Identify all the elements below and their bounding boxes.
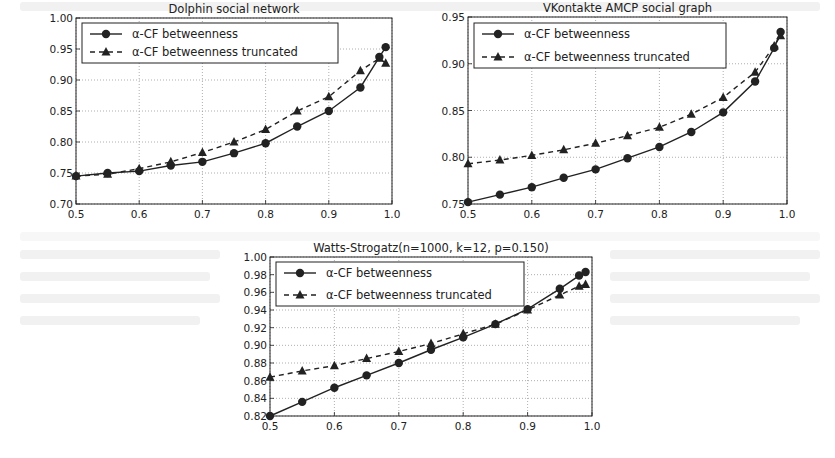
y-tick-label: 0.82 (244, 410, 267, 422)
triangle-marker-icon (394, 347, 403, 356)
legend-label: α-CF betweenness truncated (326, 288, 492, 302)
y-tick-label: 0.84 (244, 392, 268, 404)
triangle-marker-icon (581, 279, 590, 288)
legend-circle-icon (296, 269, 304, 277)
circle-marker-icon (395, 359, 403, 367)
x-tick-label: 0.6 (326, 420, 343, 432)
chart-watts-strogatz: Watts-Strogatz(n=1000, k=12, p=0.150)0.5… (0, 0, 835, 458)
y-tick-label: 0.94 (244, 304, 268, 316)
y-tick-label: 0.90 (244, 339, 267, 351)
x-tick-label: 1.0 (584, 420, 601, 432)
x-tick-label: 0.7 (390, 420, 407, 432)
chart-title: Watts-Strogatz(n=1000, k=12, p=0.150) (313, 241, 549, 255)
y-tick-label: 0.92 (244, 322, 267, 334)
y-tick-label: 0.86 (244, 375, 268, 387)
circle-marker-icon (298, 398, 306, 406)
circle-marker-icon (362, 371, 370, 379)
legend: α-CF betweennessα-CF betweenness truncat… (276, 262, 524, 306)
circle-marker-icon (330, 384, 338, 392)
triangle-marker-icon (427, 339, 436, 348)
circle-marker-icon (581, 268, 589, 276)
y-tick-label: 1.00 (244, 251, 267, 263)
y-tick-label: 0.96 (244, 286, 268, 298)
y-tick-label: 0.88 (244, 357, 267, 369)
x-tick-label: 0.9 (519, 420, 536, 432)
y-tick-label: 0.98 (244, 269, 267, 281)
x-tick-label: 0.8 (455, 420, 472, 432)
triangle-marker-icon (330, 361, 339, 370)
legend-label: α-CF betweenness (326, 266, 432, 280)
